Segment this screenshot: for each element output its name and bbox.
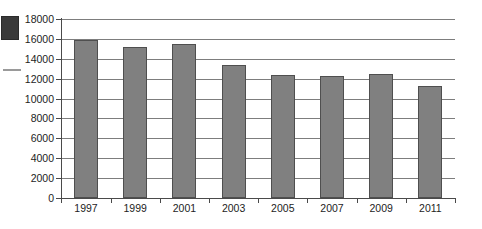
- bar: [172, 44, 196, 198]
- x-axis-tick-label: 2011: [400, 203, 460, 214]
- gridline: [62, 19, 455, 20]
- gridline: [62, 99, 455, 100]
- gridline: [62, 39, 455, 40]
- bar: [369, 74, 393, 198]
- y-axis-tick-label: 10000: [6, 94, 54, 105]
- y-axis-tick-label: 6000: [6, 133, 54, 144]
- plot-area: [62, 19, 455, 198]
- bar: [74, 40, 98, 198]
- y-axis-tick-label: 8000: [6, 113, 54, 124]
- y-axis-tick-label: 16000: [6, 34, 54, 45]
- bar: [123, 47, 147, 198]
- y-axis-line: [61, 18, 62, 199]
- gridline: [62, 158, 455, 159]
- gridline: [62, 79, 455, 80]
- y-axis-tick-label: 12000: [6, 74, 54, 85]
- y-axis-tick-label: 0: [6, 193, 54, 204]
- bar-chart-figure: 0200040006000800010000120001400016000180…: [0, 0, 482, 229]
- gridline: [62, 118, 455, 119]
- gridline: [62, 178, 455, 179]
- y-axis-tick-label: 14000: [6, 54, 54, 65]
- y-axis-tick-label: 4000: [6, 153, 54, 164]
- bar: [222, 65, 246, 198]
- y-axis-tick-label: 18000: [6, 14, 54, 25]
- gridline: [62, 59, 455, 60]
- y-axis-tick-label: 2000: [6, 173, 54, 184]
- bar: [271, 75, 295, 198]
- gridline: [62, 138, 455, 139]
- bar: [320, 76, 344, 198]
- bar: [418, 86, 442, 198]
- y-axis-tick-labels: 0200040006000800010000120001400016000180…: [0, 0, 54, 229]
